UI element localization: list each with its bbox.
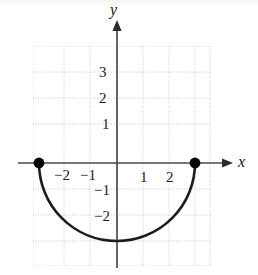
x-tick-label-neg2: −2 (54, 168, 70, 183)
graph-figure: 3 2 1 −1 −2 −2 −1 1 2 y x (0, 0, 258, 275)
y-tick-label-neg2: −2 (94, 209, 110, 224)
x-axis-label: x (238, 154, 245, 170)
x-tick-label-2: 2 (166, 170, 174, 185)
y-tick-label-2: 2 (99, 91, 107, 106)
arrow-up-icon (112, 20, 121, 31)
y-axis-label: y (110, 2, 117, 18)
y-tick-label-3: 3 (99, 65, 107, 80)
coordinate-plane (0, 0, 258, 275)
x-tick-label-neg1: −1 (80, 168, 96, 183)
arrow-right-icon (222, 158, 233, 167)
y-axis (112, 20, 121, 268)
y-tick-label-1: 1 (102, 117, 110, 132)
grid-lines (33, 46, 211, 266)
endpoint-left-dot (34, 158, 45, 169)
x-tick-label-1: 1 (140, 170, 148, 185)
x-axis (18, 158, 233, 167)
y-tick-label-neg1: −1 (94, 183, 110, 198)
endpoint-right-dot (190, 158, 201, 169)
